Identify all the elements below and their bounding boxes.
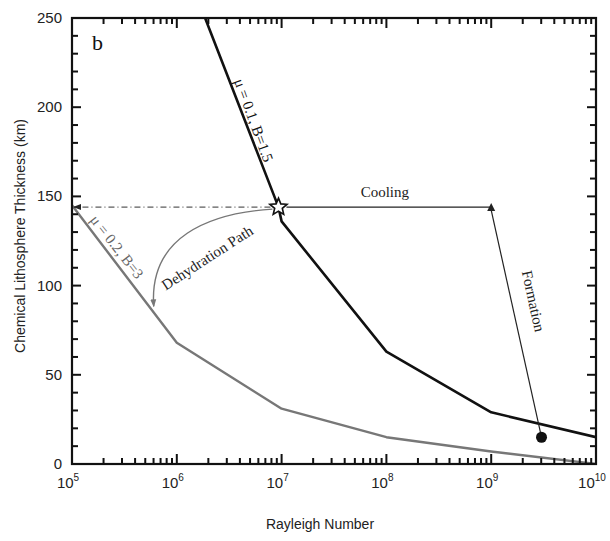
formation-label: Formation [519, 269, 548, 334]
y-tick-label: 100 [37, 277, 62, 294]
y-axis-label: Chemical Lithosphere Thickness (km) [12, 96, 28, 376]
panel-label: b [92, 30, 103, 55]
x-tick-label: 106 [162, 472, 185, 491]
plot-lines [72, 18, 596, 464]
series-line-1 [205, 18, 596, 437]
y-tick-label: 50 [45, 366, 62, 383]
chart: 0501001502002501051061071081091010 bCool… [0, 0, 610, 541]
x-tick-label: 108 [371, 472, 394, 491]
axis-ticks [72, 18, 596, 464]
y-tick-label: 200 [37, 98, 62, 115]
y-tick-label: 150 [37, 187, 62, 204]
x-tick-label: 107 [266, 472, 289, 491]
y-tick-label: 0 [54, 455, 62, 472]
x-tick-label: 105 [57, 472, 80, 491]
x-tick-label: 109 [476, 472, 499, 491]
annotations: bCoolingFormationDehydration Pathμ = 0.1… [74, 30, 548, 443]
x-axis-label: Rayleigh Number [0, 516, 610, 532]
series-line-2 [72, 205, 596, 464]
curve-label-mu-0-2: μ = 0.2, B=3 [87, 212, 147, 282]
curve-label-mu-0-1: μ = 0.1, B=1.5 [231, 76, 276, 164]
plot-frame [72, 18, 596, 464]
initial-state-dot [536, 432, 547, 443]
x-tick-label: 1010 [578, 472, 606, 491]
y-tick-label: 250 [37, 9, 62, 26]
axes-frame [72, 18, 596, 464]
star-marker-icon [270, 198, 287, 214]
cooling-label: Cooling [361, 184, 410, 200]
dehydration-path-label: Dehydration Path [159, 222, 257, 293]
